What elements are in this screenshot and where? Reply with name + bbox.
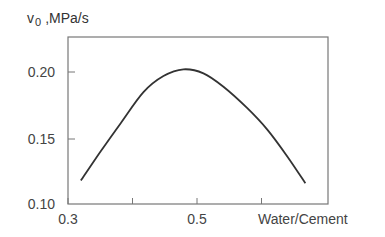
y-tick-label: 0.10 [28, 196, 55, 212]
y-tick-label: 0.15 [28, 131, 55, 147]
axis-ticks [68, 72, 262, 204]
x-tick-label: 0.3 [58, 211, 78, 227]
line-chart: 0.30.50.100.150.20 Water/Cement [0, 0, 385, 237]
x-axis-label: Water/Cement [258, 211, 348, 227]
y-tick-label: 0.20 [28, 64, 55, 80]
plot-frame [68, 37, 328, 204]
x-tick-label: 0.5 [187, 211, 207, 227]
data-curve [81, 69, 305, 183]
tick-labels: 0.30.50.100.150.20 [28, 64, 207, 227]
